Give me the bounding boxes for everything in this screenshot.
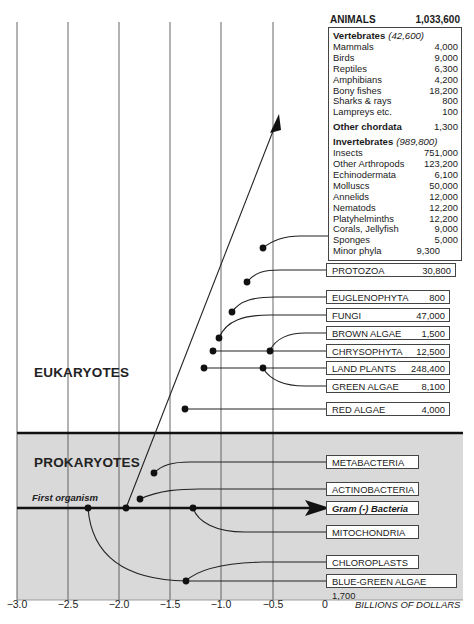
group-box-metabacteria: METABACTERIA bbox=[326, 455, 419, 469]
list-item: Nematods12,200 bbox=[333, 203, 458, 214]
list-item: Amphibians4,200 bbox=[333, 75, 458, 86]
tree-of-life-diagram: EUKARYOTES PROKARYOTES First organism AN… bbox=[0, 0, 474, 624]
invertebrates-total: (989,800) bbox=[396, 136, 437, 147]
group-box-fungi: FUNGI47,000 bbox=[326, 308, 450, 322]
group-box-euglenophyta: EUGLENOPHYTA800 bbox=[326, 290, 450, 304]
x-tick-label: −3.0 bbox=[7, 598, 28, 610]
group-box-chrysophyta: CHRYSOPHYTA12,500 bbox=[326, 344, 450, 358]
x-tick-label: −1.5 bbox=[160, 598, 181, 610]
invertebrates-label: Invertebrates bbox=[333, 136, 393, 147]
other-chordata-row: Other chordata1,300 bbox=[333, 122, 458, 133]
x-tick-label: −2.0 bbox=[109, 598, 130, 610]
animals-arrowhead bbox=[270, 114, 281, 133]
animals-title: ANIMALS bbox=[330, 14, 376, 25]
x-tick-label: 0 bbox=[322, 598, 328, 610]
vertebrates-total: (42,600) bbox=[388, 30, 424, 41]
animals-total: 1,033,600 bbox=[416, 14, 461, 25]
list-item: Annelids12,000 bbox=[333, 192, 458, 203]
list-item: Lampreys etc.100 bbox=[333, 107, 458, 118]
animals-panel: ANIMALS 1,033,600 Vertebrates(42,600) Ma… bbox=[328, 14, 462, 261]
group-box-chloroplasts: CHLOROPLASTS bbox=[326, 555, 419, 569]
x-tick-label: −1.0 bbox=[211, 598, 232, 610]
group-box-red-algae: RED ALGAE4,000 bbox=[326, 402, 450, 416]
animals-breakdown: Vertebrates(42,600) Mammals4,000 Birds9,… bbox=[328, 27, 462, 261]
x-tick-label: −0.5 bbox=[263, 598, 284, 610]
animals-header: ANIMALS 1,033,600 bbox=[328, 14, 462, 27]
group-box-land-plants: LAND PLANTS248,400 bbox=[326, 361, 450, 375]
vertebrates-label: Vertebrates bbox=[333, 30, 385, 41]
group-box-mitochondria: MITOCHONDRIA bbox=[326, 525, 419, 539]
group-box-protozoa: PROTOZOA30,800 bbox=[326, 263, 456, 277]
eukaryotes-label: EUKARYOTES bbox=[34, 365, 129, 380]
group-box-brown-algae: BROWN ALGAE1,500 bbox=[326, 326, 450, 340]
list-item: Minor phyla9,300 bbox=[333, 246, 458, 257]
first-organism-label: First organism bbox=[32, 492, 98, 503]
list-item: Reptiles6,300 bbox=[333, 64, 458, 75]
prokaryotes-label: PROKARYOTES bbox=[34, 455, 140, 470]
group-box-actinobacteria: ACTINOBACTERIA bbox=[326, 482, 419, 496]
x-axis-title: BILLIONS OF DOLLARS bbox=[355, 599, 460, 610]
group-box-green-algae: GREEN ALGAE8,100 bbox=[326, 379, 450, 393]
group-box-blue-green-algae: BLUE-GREEN ALGAE 1,700 bbox=[326, 574, 457, 588]
x-tick-label: −2.5 bbox=[58, 598, 79, 610]
group-box-gram-negative-bacteria: Gram (-) Bacteria bbox=[326, 501, 419, 515]
